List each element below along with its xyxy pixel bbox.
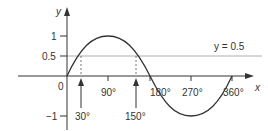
x-axis-arrow-icon — [245, 73, 254, 79]
x-tick-360: 360° — [223, 87, 244, 98]
x-tick-270: 270° — [182, 87, 203, 98]
y-axis-label: y — [55, 6, 62, 17]
y-tick-1: 1 — [51, 31, 57, 42]
arrow-150-icon — [133, 78, 139, 86]
y-axis-arrow-icon — [64, 7, 70, 16]
origin-label: 0 — [58, 81, 64, 92]
y-tick-half: 0.5 — [42, 51, 56, 62]
x-tick-180: 180° — [150, 87, 171, 98]
x-tick-90: 90° — [101, 87, 116, 98]
arrow-30-label: 30° — [75, 111, 90, 122]
y-tick-neg-1: −1 — [46, 111, 58, 122]
arrow-30-icon — [78, 78, 84, 86]
reference-line-label: y = 0.5 — [214, 41, 245, 52]
x-axis-label: x — [254, 82, 261, 93]
sine-chart: y x 0 1 0.5 −1 90° 180° 270° 360° y = 0.… — [0, 0, 268, 131]
arrow-150-label: 150° — [125, 111, 146, 122]
